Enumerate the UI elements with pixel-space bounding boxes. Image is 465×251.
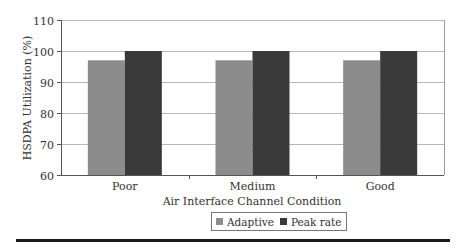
x-tick-labels: PoorMediumGood	[112, 180, 395, 193]
bar-peak-rate-medium	[253, 51, 290, 175]
x-tick-label: Medium	[230, 180, 276, 193]
y-tick-label: 80	[40, 108, 54, 121]
y-tick-label: 110	[33, 15, 54, 28]
x-tick-label: Good	[366, 180, 395, 193]
x-axis-label: Air Interface Channel Condition	[162, 195, 342, 208]
bottom-rule	[16, 239, 450, 242]
y-tick-label: 70	[40, 139, 54, 152]
y-tick-label: 100	[33, 46, 54, 59]
bars	[88, 51, 417, 175]
y-tick-label: 90	[40, 77, 54, 90]
x-tick-label: Poor	[112, 180, 138, 193]
bar-peak-rate-good	[380, 51, 417, 175]
legend-item-adaptive: Adaptive	[216, 216, 274, 228]
bar-adaptive-poor	[88, 60, 125, 175]
legend-label-peak-rate: Peak rate	[291, 216, 341, 228]
legend: Adaptive Peak rate	[211, 212, 347, 231]
bar-adaptive-medium	[216, 60, 253, 175]
y-tick-labels: 60708090100110	[33, 15, 54, 183]
legend-item-peak-rate: Peak rate	[280, 216, 341, 228]
legend-swatch-adaptive	[216, 218, 223, 225]
bar-adaptive-good	[343, 60, 380, 175]
legend-swatch-peak-rate	[280, 218, 287, 225]
y-tick-label: 60	[40, 170, 54, 183]
legend-label-adaptive: Adaptive	[227, 216, 274, 228]
bar-peak-rate-poor	[125, 51, 162, 175]
y-axis-label: HSDPA Utilization (%)	[21, 36, 34, 161]
